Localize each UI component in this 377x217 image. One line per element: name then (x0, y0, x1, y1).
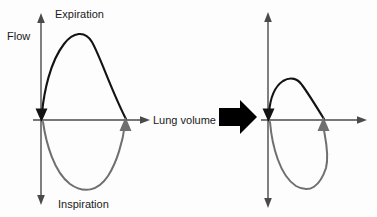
x-axis-label-lung-volume: Lung volume (153, 114, 216, 126)
y-axis-arrowhead-up (37, 13, 45, 23)
y-axis-arrowhead-up-obstructed (264, 12, 272, 22)
inspiration-curve-obstructed (270, 122, 327, 189)
label-expiration: Expiration (55, 8, 104, 20)
x-axis-obstructed (261, 116, 367, 124)
panel-obstructed (261, 12, 367, 208)
flow-volume-figure: Flow Expiration Inspiration Lung volume (0, 0, 377, 217)
y-axis-label-flow: Flow (7, 30, 30, 42)
x-axis-normal (33, 116, 150, 124)
expiration-curve-normal (42, 34, 126, 119)
inspiration-end-arrowhead-normal (120, 117, 132, 131)
panel-normal: Flow Expiration Inspiration Lung volume (7, 8, 216, 210)
diagram-canvas: Flow Expiration Inspiration Lung volume (0, 0, 377, 217)
y-axis-arrowhead-down (37, 195, 45, 205)
y-axis-arrowhead-down-obstructed (264, 198, 272, 208)
right-block-arrow-icon (219, 100, 257, 134)
x-axis-arrowhead-right (140, 116, 150, 124)
x-axis-arrowhead-right-obstructed (357, 116, 367, 124)
expiration-curve-obstructed (269, 78, 324, 119)
label-inspiration: Inspiration (58, 198, 109, 210)
inspiration-curve-normal (43, 122, 125, 190)
inspiration-end-arrowhead-obstructed (318, 117, 330, 131)
transition-arrow (219, 100, 257, 134)
